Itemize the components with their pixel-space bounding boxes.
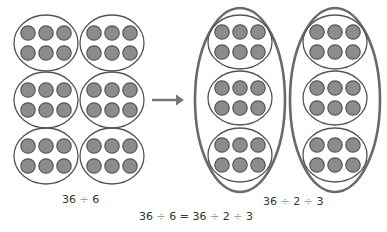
- counter-dot: [105, 83, 119, 97]
- counter-dot: [57, 139, 71, 153]
- counter-dot: [310, 158, 324, 172]
- counter-dot: [310, 45, 324, 59]
- counter-dot: [105, 159, 119, 173]
- counter-dot: [215, 158, 229, 172]
- counter-dot: [123, 26, 137, 40]
- counter-dot: [328, 101, 342, 115]
- dot-group: [208, 128, 272, 182]
- counter-dot: [328, 138, 342, 152]
- dot-group: [14, 15, 78, 71]
- counter-dot: [57, 159, 71, 173]
- counter-dot: [21, 83, 35, 97]
- counter-dot: [233, 158, 247, 172]
- dot-group: [80, 128, 144, 184]
- counter-dot: [123, 83, 137, 97]
- counter-dot: [328, 158, 342, 172]
- arrow-right-icon: [152, 95, 184, 106]
- counter-dot: [57, 83, 71, 97]
- counter-dot: [310, 138, 324, 152]
- counter-dot: [21, 46, 35, 60]
- counter-dot: [346, 45, 360, 59]
- group-ellipse: [208, 71, 272, 125]
- counter-dot: [105, 139, 119, 153]
- left-label: 36 ÷ 6: [62, 193, 99, 206]
- counter-dot: [251, 45, 265, 59]
- counter-dot: [215, 81, 229, 95]
- group-ellipse: [14, 72, 78, 128]
- counter-dot: [39, 139, 53, 153]
- group-ellipse: [303, 71, 367, 125]
- counter-dot: [233, 81, 247, 95]
- counter-dot: [87, 103, 101, 117]
- group-ellipse: [80, 128, 144, 184]
- counter-dot: [39, 46, 53, 60]
- counter-dot: [39, 159, 53, 173]
- counter-dot: [21, 139, 35, 153]
- counter-dot: [215, 25, 229, 39]
- counter-dot: [123, 103, 137, 117]
- dot-group: [208, 15, 272, 69]
- dot-group: [14, 72, 78, 128]
- counter-dot: [310, 81, 324, 95]
- counter-dot: [39, 103, 53, 117]
- counter-dot: [57, 46, 71, 60]
- dot-group: [208, 71, 272, 125]
- group-ellipse: [80, 15, 144, 71]
- counter-dot: [251, 138, 265, 152]
- group-ellipse: [303, 15, 367, 69]
- counter-dot: [215, 101, 229, 115]
- group-ellipse: [208, 128, 272, 182]
- group-ellipse: [14, 15, 78, 71]
- counter-dot: [346, 138, 360, 152]
- counter-dot: [233, 25, 247, 39]
- counter-dot: [87, 26, 101, 40]
- counter-dot: [251, 25, 265, 39]
- counter-dot: [346, 81, 360, 95]
- counter-dot: [346, 101, 360, 115]
- counter-dot: [21, 26, 35, 40]
- counter-dot: [87, 139, 101, 153]
- counter-dot: [39, 83, 53, 97]
- left-grid: [14, 15, 144, 184]
- counter-dot: [105, 46, 119, 60]
- counter-dot: [87, 159, 101, 173]
- counter-dot: [346, 158, 360, 172]
- counter-dot: [251, 81, 265, 95]
- counter-dot: [87, 83, 101, 97]
- counter-dot: [123, 159, 137, 173]
- equation: 36 ÷ 6 = 36 ÷ 2 ÷ 3: [139, 210, 253, 223]
- counter-dot: [233, 45, 247, 59]
- counter-dot: [123, 46, 137, 60]
- dot-group: [14, 128, 78, 184]
- dot-group: [303, 71, 367, 125]
- counter-dot: [233, 138, 247, 152]
- counter-dot: [105, 26, 119, 40]
- counter-dot: [123, 139, 137, 153]
- counter-dot: [215, 45, 229, 59]
- dot-group: [303, 128, 367, 182]
- counter-dot: [346, 25, 360, 39]
- counter-dot: [328, 45, 342, 59]
- counter-dot: [21, 159, 35, 173]
- counter-dot: [21, 103, 35, 117]
- group-ellipse: [14, 128, 78, 184]
- counter-dot: [233, 101, 247, 115]
- outer-group: [195, 8, 285, 192]
- counter-dot: [105, 103, 119, 117]
- group-ellipse: [80, 72, 144, 128]
- counter-dot: [328, 81, 342, 95]
- counter-dot: [57, 26, 71, 40]
- counter-dot: [251, 158, 265, 172]
- counter-dot: [215, 138, 229, 152]
- dot-group: [303, 15, 367, 69]
- right-label: 36 ÷ 2 ÷ 3: [263, 195, 323, 208]
- counter-dot: [328, 25, 342, 39]
- counter-dot: [87, 46, 101, 60]
- counter-dot: [57, 103, 71, 117]
- counter-dot: [251, 101, 265, 115]
- division-diagram: [0, 0, 387, 232]
- counter-dot: [310, 25, 324, 39]
- right-grid: [195, 8, 380, 192]
- counter-dot: [310, 101, 324, 115]
- group-ellipse: [303, 128, 367, 182]
